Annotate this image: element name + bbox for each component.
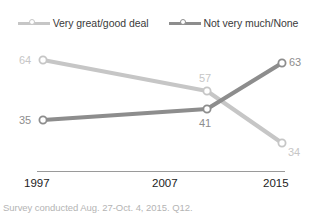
legend-marker-icon-dark — [169, 18, 201, 29]
data-label-dark-2015: 63 — [289, 56, 301, 68]
line-chart: Very great/good deal Not very much/None — [0, 0, 316, 221]
series-lines — [0, 48, 316, 173]
legend-item-not-very-much-none[interactable]: Not very much/None — [169, 18, 299, 29]
series-line-very-great-good-deal — [43, 60, 282, 143]
plot-area: 64 57 34 35 41 63 — [0, 48, 316, 173]
data-point-light-1997[interactable] — [39, 56, 46, 63]
x-tick-1997: 1997 — [24, 176, 50, 190]
data-label-dark-2007: 41 — [199, 117, 211, 129]
legend-label-not-very-much-none: Not very much/None — [204, 18, 299, 29]
series-line-not-very-much-none — [43, 63, 282, 120]
data-label-light-2015: 34 — [288, 146, 300, 158]
x-tick-2015: 2015 — [263, 176, 289, 190]
data-point-light-2015[interactable] — [278, 139, 285, 146]
x-axis-tick-labels: 1997 2007 2015 — [0, 176, 316, 192]
data-label-dark-1997: 35 — [19, 114, 31, 126]
chart-legend: Very great/good deal Not very much/None — [0, 14, 316, 32]
data-point-dark-1997[interactable] — [39, 116, 46, 123]
chart-footnote: Survey conducted Aug. 27-Oct. 4, 2015. Q… — [3, 202, 193, 214]
legend-circle-light — [29, 19, 35, 25]
data-point-light-2007[interactable] — [203, 87, 210, 94]
data-label-light-2007: 57 — [199, 72, 211, 84]
x-tick-2007: 2007 — [152, 176, 178, 190]
legend-circle-dark — [180, 19, 186, 25]
data-point-dark-2007[interactable] — [203, 105, 210, 112]
data-point-dark-2015[interactable] — [278, 59, 285, 66]
x-axis-line — [37, 171, 285, 172]
data-label-light-1997: 64 — [19, 54, 31, 66]
legend-label-very-great-good-deal: Very great/good deal — [53, 18, 149, 29]
legend-marker-icon-light — [18, 18, 50, 29]
legend-item-very-great-good-deal[interactable]: Very great/good deal — [18, 18, 149, 29]
